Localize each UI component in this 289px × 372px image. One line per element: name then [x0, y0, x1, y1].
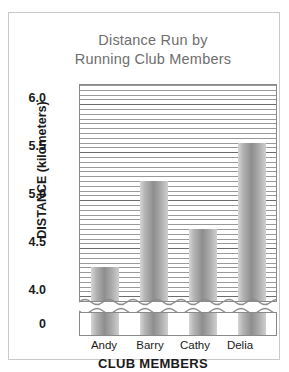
- gridline-5.95: [80, 109, 276, 110]
- gridline-5.75: [80, 128, 276, 129]
- bar-stub-andy: [91, 313, 119, 335]
- chart-title-line-1: Distance Run by: [17, 25, 289, 50]
- y-tick-label-6.0: 6.0: [6, 91, 46, 105]
- x-tick-label-barry: Barry: [128, 339, 172, 351]
- y-tick-label-4.5: 4.5: [6, 235, 46, 249]
- chart-frame: Distance Run by Running Club Members DIS…: [8, 12, 280, 360]
- gridline-5.80: [80, 123, 276, 124]
- plot-area: [79, 84, 277, 302]
- gridline-6.10: [80, 95, 276, 96]
- x-tick-label-andy: Andy: [82, 339, 126, 351]
- x-tick-label-delia: Delia: [218, 339, 262, 351]
- chart-title-line-2: Running Club Members: [17, 50, 289, 69]
- gridline-6.20: [80, 85, 276, 86]
- bar-cathy: [189, 229, 217, 301]
- gridline-6.15: [80, 90, 276, 91]
- y-tick-label-0: 0: [6, 317, 46, 331]
- gridline-5.90: [80, 114, 276, 115]
- gridline-5.70: [80, 133, 276, 134]
- axis-break-squiggle-upper: [79, 297, 277, 306]
- axis-break-stub-area: [79, 312, 277, 336]
- y-tick-label-5.5: 5.5: [6, 139, 46, 153]
- bar-stub-cathy: [189, 313, 217, 335]
- bar-delia: [238, 143, 266, 301]
- x-tick-label-cathy: Cathy: [173, 339, 217, 351]
- gridline-6.00: [80, 104, 276, 105]
- y-tick-label-4.0: 4.0: [6, 283, 46, 297]
- x-axis-label: CLUB MEMBERS: [17, 356, 289, 371]
- gridline-5.65: [80, 138, 276, 139]
- bar-andy: [91, 267, 119, 301]
- bar-barry: [140, 181, 168, 301]
- bar-stub-barry: [140, 313, 168, 335]
- gridline-5.85: [80, 119, 276, 120]
- y-tick-label-5.0: 5.0: [6, 187, 46, 201]
- bar-stub-delia: [238, 313, 266, 335]
- gridline-6.05: [80, 99, 276, 100]
- chart-title: Distance Run by Running Club Members: [17, 25, 289, 69]
